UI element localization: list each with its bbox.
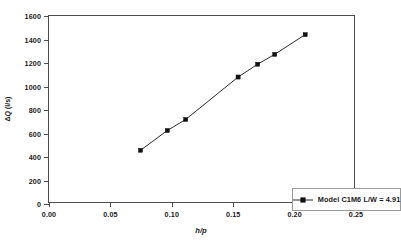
data-point-marker [184, 117, 188, 121]
y-tick-label: 600 [29, 129, 41, 138]
x-axis-title: h/p [195, 226, 206, 235]
x-tick-mark [49, 202, 50, 207]
x-tick-mark [110, 202, 111, 207]
y-tick-label: 0 [37, 200, 41, 209]
y-tick-label: 1400 [25, 35, 41, 44]
series-line-model-c1m6 [141, 35, 306, 151]
x-tick-mark [233, 202, 234, 207]
x-tick-label: 0.05 [103, 210, 117, 219]
x-tick-label: 0.25 [349, 210, 363, 219]
y-tick-label: 800 [29, 106, 41, 115]
y-tick-label: 1000 [25, 82, 41, 91]
y-tick-label: 200 [29, 176, 41, 185]
data-series-layer [49, 16, 354, 202]
chart-legend: Model C1M6 L/W = 4.91 [292, 188, 401, 211]
x-tick-mark [172, 202, 173, 207]
data-point-marker [165, 128, 169, 132]
y-tick-label: 400 [29, 153, 41, 162]
data-point-marker [273, 52, 277, 56]
y-axis-title-units: (l/s) [4, 97, 11, 111]
x-tick-label: 0.15 [226, 210, 240, 219]
x-tick-label: 0.10 [165, 210, 179, 219]
plot-area: 02004006008001000120014001600 0.000.050.… [48, 15, 355, 203]
y-axis-title: ΔQ (l/s) [4, 97, 11, 122]
y-tick-label: 1600 [25, 12, 41, 21]
series-markers-model-c1m6 [138, 33, 307, 153]
x-tick-label: 0.20 [287, 210, 301, 219]
data-point-marker [236, 75, 240, 79]
data-point-marker [303, 33, 307, 37]
y-axis-title-delta: Δ [4, 116, 11, 121]
data-point-marker [256, 62, 260, 66]
y-axis-title-symbol: Q [4, 111, 11, 116]
x-tick-label: 0.00 [42, 210, 56, 219]
legend-sample-icon [293, 196, 313, 204]
legend-entry-label: Model C1M6 L/W = 4.91 [318, 195, 401, 204]
data-point-marker [138, 148, 142, 152]
y-tick-label: 1200 [25, 59, 41, 68]
